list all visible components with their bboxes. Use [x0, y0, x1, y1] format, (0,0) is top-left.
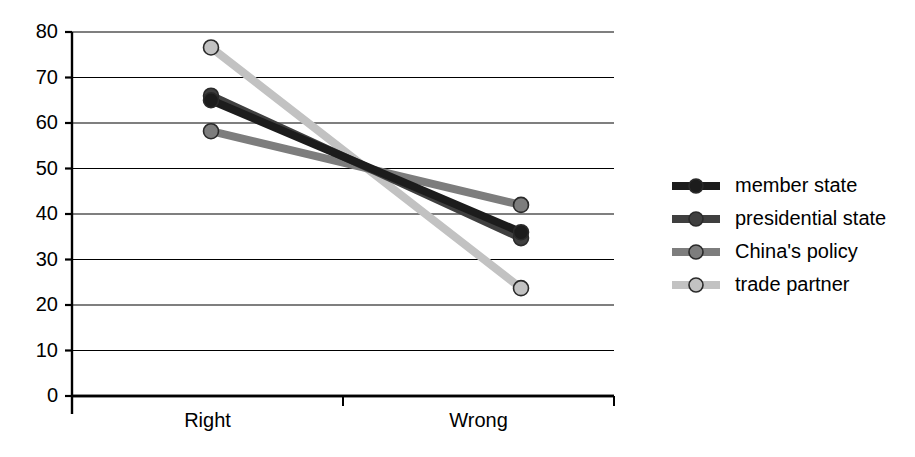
series-marker — [514, 281, 529, 296]
line-chart: 01020304050607080 RightWrong member stat… — [0, 0, 915, 457]
x-axis-tick-label: Wrong — [449, 409, 508, 431]
y-axis-tick-label: 50 — [36, 157, 58, 179]
legend-entry-label: trade partner — [735, 273, 850, 295]
y-axis-tick-label: 70 — [36, 66, 58, 88]
y-axis-tick-label: 60 — [36, 111, 58, 133]
legend-swatch-marker — [689, 179, 703, 193]
y-axis-tick-label: 10 — [36, 339, 58, 361]
x-axis-tick-label: Right — [184, 409, 231, 431]
legend-entry-label: presidential state — [735, 207, 886, 229]
series-marker — [514, 225, 529, 240]
y-axis-tick-label: 80 — [36, 20, 58, 42]
legend-swatch-marker — [689, 212, 703, 226]
legend-swatch-marker — [689, 245, 703, 259]
y-axis-tick-labels: 01020304050607080 — [36, 20, 58, 406]
legend-entry-label: member state — [735, 174, 857, 196]
legend-entry-label: China's policy — [735, 240, 858, 262]
chart-canvas: 01020304050607080 RightWrong member stat… — [0, 0, 915, 457]
y-axis-tick-label: 40 — [36, 202, 58, 224]
legend-swatch-marker — [689, 278, 703, 292]
y-axis-tick-label: 0 — [47, 384, 58, 406]
series-marker — [204, 40, 219, 55]
series-marker — [204, 124, 219, 139]
y-axis-tick-label: 20 — [36, 293, 58, 315]
series-marker — [514, 197, 529, 212]
y-axis-tick-label: 30 — [36, 248, 58, 270]
series-marker — [204, 93, 219, 108]
